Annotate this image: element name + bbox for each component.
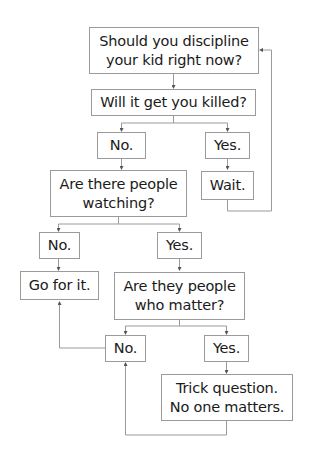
- question-matter-box: Are they people who matter?: [114, 272, 245, 320]
- flowchart: Should you discipline your kid right now…: [0, 0, 325, 461]
- answer-killed-yes-box: Yes.: [205, 132, 250, 159]
- wait-box: Wait.: [201, 171, 254, 200]
- answer-killed-no-box: No.: [97, 132, 146, 159]
- question-discipline-box: Should you discipline your kid right now…: [89, 27, 259, 74]
- question-killed-box: Will it get you killed?: [91, 89, 256, 116]
- answer-watching-no-box: No.: [39, 232, 80, 259]
- answer-matter-yes-box: Yes.: [204, 335, 249, 362]
- trick-question-box: Trick question. No one matters.: [161, 374, 293, 421]
- answer-matter-no-box: No.: [105, 335, 146, 362]
- question-watching-box: Are there people watching?: [50, 170, 187, 217]
- answer-watching-yes-box: Yes.: [157, 232, 202, 259]
- go-for-it-box: Go for it.: [20, 271, 99, 300]
